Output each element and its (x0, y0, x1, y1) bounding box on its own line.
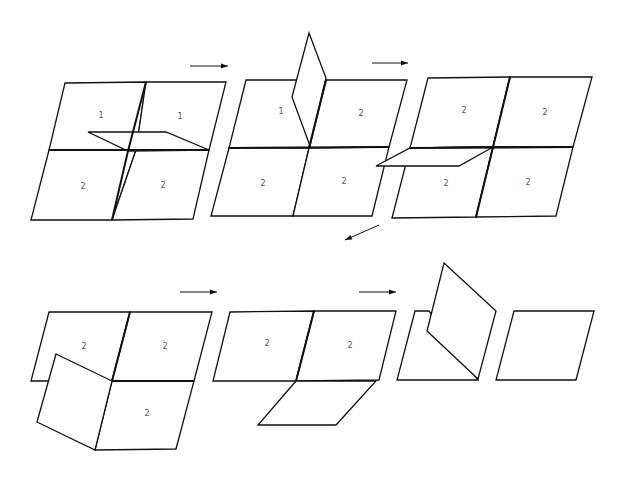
arrow-icon (359, 290, 396, 295)
panel-label: 2 (80, 182, 85, 191)
panel-label: 2 (264, 339, 269, 348)
panel (496, 311, 594, 380)
panel-label: 1 (278, 107, 283, 116)
folding-diagram: 11221222222222222 (0, 0, 626, 477)
crease-line (410, 147, 573, 148)
panel-label: 1 (177, 112, 182, 121)
fold-step-6 (397, 263, 594, 380)
fold-step-4: 222 (31, 312, 212, 450)
steps-layer: 11221222222222222 (31, 33, 594, 450)
arrow-icon (190, 64, 228, 69)
arrow-icon (180, 290, 217, 295)
fold-step-3: 2222 (376, 77, 592, 218)
panel-label: 2 (162, 342, 167, 351)
panel-label: 2 (461, 106, 466, 115)
panel-label: 1 (98, 111, 103, 120)
panel-label: 2 (341, 177, 346, 186)
panel-label: 2 (81, 342, 86, 351)
panel-label: 2 (144, 409, 149, 418)
fold-step-2: 1222 (211, 33, 407, 216)
panel-label: 2 (347, 341, 352, 350)
panel-label: 2 (160, 181, 165, 190)
fold-step-5: 22 (213, 311, 396, 425)
fold-step-1: 1122 (31, 82, 226, 220)
folded-flap (258, 381, 376, 425)
arrow-icon (372, 61, 408, 66)
panel-label: 2 (525, 178, 530, 187)
crease-line (229, 147, 389, 148)
panel-label: 2 (542, 108, 547, 117)
arrow-icon (345, 225, 379, 240)
panel-label: 2 (260, 179, 265, 188)
panel-label: 2 (443, 179, 448, 188)
panel-label: 2 (358, 109, 363, 118)
